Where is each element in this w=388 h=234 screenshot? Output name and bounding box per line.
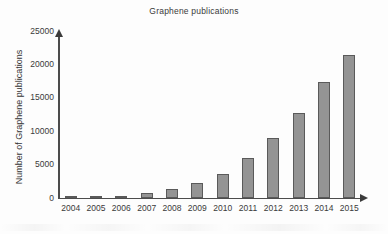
plot-area: 0500010000150002000025000 xyxy=(58,28,370,199)
bar-slot xyxy=(58,29,83,198)
bar xyxy=(318,82,330,198)
y-tick-label: 20000 xyxy=(30,59,54,69)
bar-slot xyxy=(134,29,159,198)
bar-slot xyxy=(83,29,108,198)
x-tick-label: 2005 xyxy=(83,203,108,213)
x-axis-tick-labels: 2004200520062007200820092010201120122013… xyxy=(58,203,362,219)
y-tick-label: 5000 xyxy=(35,159,54,169)
bar-slot xyxy=(159,29,184,198)
x-tick-label: 2007 xyxy=(134,203,159,213)
bar xyxy=(141,193,153,197)
y-axis-title: Number of Graphene publications xyxy=(14,32,24,202)
x-tick-label: 2008 xyxy=(159,203,184,213)
x-tick-label: 2013 xyxy=(286,203,311,213)
y-tick-label: 0 xyxy=(49,193,54,203)
x-tick-label: 2014 xyxy=(311,203,336,213)
x-axis-line xyxy=(58,198,362,200)
x-tick-label: 2004 xyxy=(58,203,83,213)
bar-slot xyxy=(311,29,336,198)
chart-figure: Graphene publications Number of Graphene… xyxy=(0,0,388,234)
bar xyxy=(90,196,102,198)
x-tick-label: 2011 xyxy=(235,203,260,213)
bar-slot xyxy=(210,29,235,198)
bar xyxy=(217,174,229,198)
x-tick-label: 2006 xyxy=(109,203,134,213)
bar xyxy=(65,196,77,198)
bar-slot xyxy=(337,29,362,198)
x-tick-label: 2009 xyxy=(185,203,210,213)
bar xyxy=(115,196,127,198)
scan-artifact xyxy=(0,224,388,231)
bar-slot xyxy=(286,29,311,198)
y-tick-label: 10000 xyxy=(30,126,54,136)
bar xyxy=(242,158,254,197)
bar-slot xyxy=(235,29,260,198)
bar xyxy=(267,138,279,197)
y-tick-label: 25000 xyxy=(30,26,54,36)
chart-title: Graphene publications xyxy=(0,6,388,16)
x-tick-label: 2012 xyxy=(261,203,286,213)
bar-series xyxy=(58,29,362,198)
bar-slot xyxy=(185,29,210,198)
bar xyxy=(343,55,355,198)
bar-slot xyxy=(109,29,134,198)
bar xyxy=(191,183,203,197)
bar xyxy=(293,113,305,197)
bar xyxy=(166,189,178,198)
y-tick-label: 15000 xyxy=(30,92,54,102)
bar-slot xyxy=(261,29,286,198)
x-tick-label: 2010 xyxy=(210,203,235,213)
x-tick-label: 2015 xyxy=(337,203,362,213)
